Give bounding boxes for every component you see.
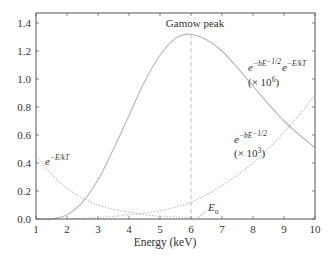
x-tick-label: 6 [188, 223, 194, 235]
x-tick-label: 2 [64, 223, 70, 235]
ekt-label: e−E/kT [45, 153, 70, 167]
x-tick-label: 7 [219, 223, 225, 235]
ekt-curve [36, 156, 191, 218]
y-tick-label: 1.4 [17, 17, 31, 29]
x-tick-label: 8 [250, 223, 256, 235]
x-tick-label: 1 [33, 223, 39, 235]
gamow-peak-label: Gamow peak [166, 17, 225, 29]
gamow-curve-label: e−bE−1/2e−E/kT [248, 57, 307, 73]
plot-frame [36, 13, 315, 219]
y-tick-label: 0.8 [17, 101, 31, 113]
x-axis-title: Energy (keV) [134, 236, 197, 249]
gamow-peak-chart: 123456789100.00.20.40.60.81.01.21.4 Gamo… [0, 0, 335, 259]
x-tick-label: 4 [126, 223, 132, 235]
e0-label: Eo [207, 201, 219, 216]
x-tick-label: 5 [157, 223, 163, 235]
y-tick-label: 1.2 [17, 45, 31, 57]
x-tick-label: 9 [281, 223, 287, 235]
x-tick-label: 3 [95, 223, 101, 235]
b-curve-scale: (× 103) [234, 146, 265, 160]
y-tick-label: 0.0 [17, 213, 31, 225]
axis-ticks: 123456789100.00.20.40.60.81.01.21.4 [17, 13, 321, 235]
b-curve-label: e−bE−1/2 [234, 129, 267, 145]
y-tick-label: 0.4 [17, 157, 31, 169]
gamow-curve-scale: (× 106) [248, 75, 279, 89]
y-tick-label: 1.0 [17, 73, 31, 85]
y-tick-label: 0.6 [17, 129, 31, 141]
x-tick-label: 10 [310, 223, 322, 235]
e0-pointer [196, 211, 207, 219]
y-tick-label: 0.2 [17, 185, 31, 197]
